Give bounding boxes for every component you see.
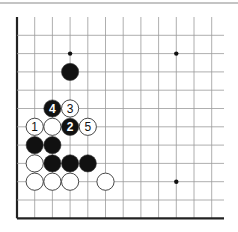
move-number-label: 1 bbox=[31, 120, 38, 134]
white-stone bbox=[97, 173, 114, 190]
black-stone bbox=[62, 63, 79, 80]
black-stone: 4 bbox=[44, 100, 61, 117]
move-number-label: 2 bbox=[67, 120, 74, 134]
black-stone bbox=[79, 155, 96, 172]
white-stone bbox=[44, 173, 61, 190]
star-point-icon bbox=[68, 51, 72, 55]
move-number-label: 5 bbox=[84, 120, 91, 134]
white-stone bbox=[44, 118, 61, 135]
white-stone: 1 bbox=[26, 118, 43, 135]
star-point-icon bbox=[174, 180, 178, 184]
white-stone: 5 bbox=[79, 118, 96, 135]
black-stone bbox=[44, 137, 61, 154]
black-stone: 2 bbox=[62, 118, 79, 135]
black-stone bbox=[44, 155, 61, 172]
black-stone bbox=[26, 137, 43, 154]
go-board: 43125 bbox=[0, 0, 238, 232]
white-stone bbox=[26, 173, 43, 190]
move-number-label: 4 bbox=[49, 102, 56, 116]
white-stone: 3 bbox=[62, 100, 79, 117]
move-number-label: 3 bbox=[67, 102, 74, 116]
white-stone bbox=[26, 155, 43, 172]
black-stone bbox=[62, 155, 79, 172]
white-stone bbox=[62, 173, 79, 190]
star-point-icon bbox=[174, 51, 178, 55]
